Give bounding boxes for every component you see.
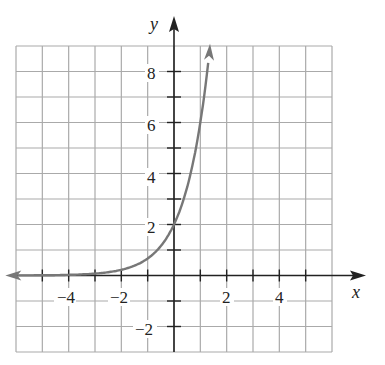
y-tick-label: 8 — [147, 64, 156, 83]
x-tick-label: −2 — [110, 288, 128, 307]
graph: y x −4 −2 2 4 8 6 4 2 −2 — [0, 0, 385, 365]
x-tick-label: 2 — [222, 288, 231, 307]
axis-labels: y x −4 −2 2 4 8 6 4 2 −2 — [57, 14, 360, 339]
exponential-curve — [17, 63, 208, 276]
y-axis-label: y — [148, 14, 158, 34]
y-tick-label: 6 — [147, 116, 156, 135]
x-tick-label: −4 — [57, 288, 76, 307]
coordinate-plane: y x −4 −2 2 4 8 6 4 2 −2 — [0, 0, 385, 365]
x-axis-label: x — [351, 282, 360, 302]
x-tick-label: 4 — [275, 288, 284, 307]
y-tick-label: −2 — [135, 320, 153, 339]
y-tick-label: 2 — [147, 218, 156, 237]
y-tick-label: 4 — [147, 168, 156, 187]
